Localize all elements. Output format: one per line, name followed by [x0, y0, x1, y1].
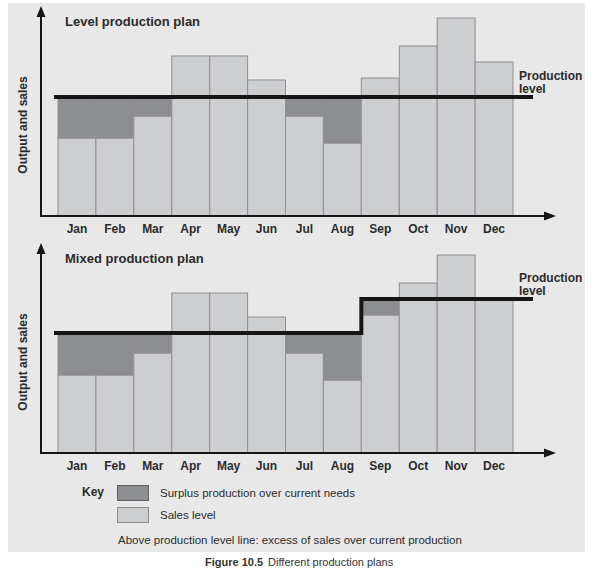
chart2-bar-feb-surplus [96, 333, 134, 375]
chart1-y-axis-arrow-icon [37, 6, 46, 17]
chart1-bar-aug-sales [323, 143, 361, 216]
chart2-month-label-dec: Dec [483, 459, 505, 473]
chart1-month-label-jan: Jan [67, 222, 88, 236]
chart1-month-label-jul: Jul [296, 222, 313, 236]
figure-caption: Figure 10.5Different production plans [205, 556, 393, 568]
chart1-month-label-aug: Aug [331, 222, 354, 236]
chart1-month-label-apr: Apr [180, 222, 201, 236]
chart2-month-label-may: May [217, 459, 241, 473]
chart2-month-label-sep: Sep [369, 459, 391, 473]
chart2-month-label-aug: Aug [331, 459, 354, 473]
chart1-bar-may-sales [210, 56, 248, 216]
chart2-bar-may-sales [210, 293, 248, 453]
chart2-bar-sep-surplus [361, 299, 399, 315]
chart2-month-label-mar: Mar [142, 459, 164, 473]
chart2-month-label-jun: Jun [256, 459, 277, 473]
key-sales-label: Sales level [160, 509, 216, 521]
chart2-title: Mixed production plan [65, 251, 204, 266]
chart2-bar-mar-surplus [134, 333, 172, 353]
chart1-month-label-nov: Nov [445, 222, 468, 236]
chart1-bar-jul-sales [286, 116, 324, 216]
chart2-bar-sep-sales [361, 315, 399, 453]
chart1-bar-aug-surplus [323, 97, 361, 143]
caption-prefix: Figure 10.5 [205, 556, 263, 568]
chart2-bar-jul-sales [286, 353, 324, 453]
key: Key Surplus production over current need… [8, 477, 585, 552]
chart1-month-label-may: May [217, 222, 241, 236]
level-production-plan-chart: Level production planOutput and salesJan… [8, 3, 585, 240]
chart2-bar-aug-surplus [323, 333, 361, 380]
chart1-title: Level production plan [65, 14, 200, 29]
chart2-bar-apr-sales [172, 293, 210, 453]
chart1-bar-feb-surplus [96, 97, 134, 138]
chart2-bar-jan-sales [58, 375, 96, 453]
chart1-production-level-label: Productionlevel [519, 69, 582, 96]
chart1-bar-mar-sales [134, 116, 172, 216]
chart1-bar-feb-sales [96, 138, 134, 216]
chart1-month-label-mar: Mar [142, 222, 164, 236]
key-title: Key [82, 485, 104, 499]
chart2-bar-oct-sales [399, 283, 437, 453]
chart2-month-label-oct: Oct [408, 459, 428, 473]
chart2-month-label-jul: Jul [296, 459, 313, 473]
chart2-bar-dec-sales [475, 299, 513, 453]
chart1-month-label-oct: Oct [408, 222, 428, 236]
chart2-x-axis-arrow-icon [544, 449, 556, 458]
chart2-y-axis-label: Output and sales [16, 313, 30, 411]
chart1-bar-jan-surplus [58, 97, 96, 138]
chart1-bar-apr-sales [172, 56, 210, 216]
mixed-production-plan-chart: Mixed production planOutput and salesJan… [8, 240, 585, 477]
chart2-bar-aug-sales [323, 380, 361, 453]
chart1-month-label-dec: Dec [483, 222, 505, 236]
chart1-bar-nov-sales [437, 18, 475, 216]
key-note: Above production level line: excess of s… [118, 534, 462, 546]
chart1-bar-jan-sales [58, 138, 96, 216]
caption-text: Different production plans [268, 556, 393, 568]
figure-panel: Level production planOutput and salesJan… [8, 3, 585, 552]
chart1-y-axis-label: Output and sales [16, 76, 30, 174]
chart2-bar-jul-surplus [286, 333, 324, 353]
chart1-x-axis-arrow-icon [544, 212, 556, 221]
chart2-month-label-feb: Feb [104, 459, 125, 473]
chart2-bar-mar-sales [134, 353, 172, 453]
key-surplus-label: Surplus production over current needs [160, 487, 355, 499]
chart2-bar-nov-sales [437, 255, 475, 453]
chart1-month-label-jun: Jun [256, 222, 277, 236]
chart1-bar-jul-surplus [286, 97, 324, 116]
chart2-bar-jun-sales [248, 317, 286, 453]
chart1-month-label-feb: Feb [104, 222, 125, 236]
chart1-bar-oct-sales [399, 46, 437, 216]
chart2-month-label-apr: Apr [180, 459, 201, 473]
chart2-y-axis-arrow-icon [37, 243, 46, 254]
chart2-bar-feb-sales [96, 375, 134, 453]
chart1-month-label-sep: Sep [369, 222, 391, 236]
chart2-production-level-label: Productionlevel [519, 271, 582, 298]
chart2-month-label-nov: Nov [445, 459, 468, 473]
sales-swatch [117, 507, 149, 523]
chart1-bar-mar-surplus [134, 97, 172, 116]
chart1-bar-jun-sales [248, 80, 286, 216]
chart2-month-label-jan: Jan [67, 459, 88, 473]
surplus-swatch [117, 485, 149, 501]
chart2-bar-jan-surplus [58, 333, 96, 375]
chart1-bar-dec-sales [475, 62, 513, 216]
